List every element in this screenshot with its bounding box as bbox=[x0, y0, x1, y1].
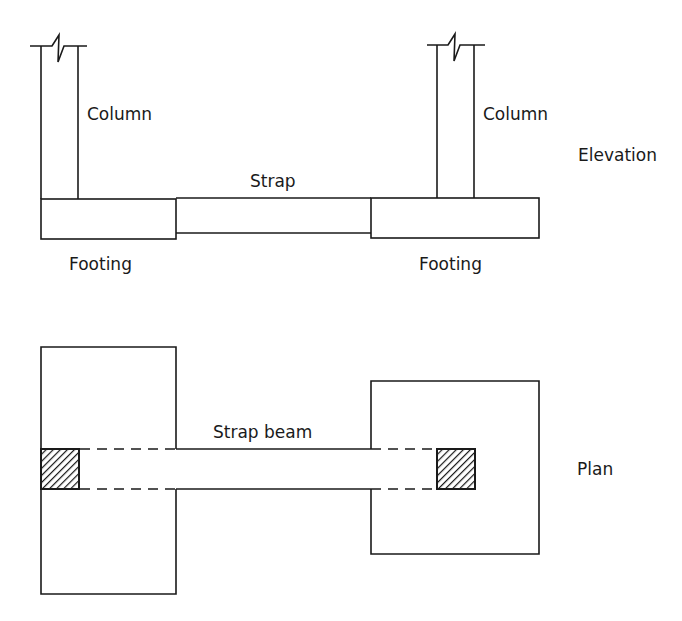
strap-elevation bbox=[176, 198, 371, 233]
break-line-icon bbox=[427, 34, 485, 61]
plan-view: Strap beam Plan bbox=[41, 347, 613, 594]
strap-label: Strap bbox=[250, 171, 296, 191]
strap-footing-diagram: Column Column Strap Footing Footing Elev… bbox=[0, 0, 682, 621]
left-footing-elevation bbox=[41, 199, 176, 239]
right-footing-label: Footing bbox=[419, 254, 482, 274]
right-column-label: Column bbox=[483, 104, 548, 124]
right-column-elevation bbox=[427, 34, 485, 198]
elevation-view-label: Elevation bbox=[578, 145, 657, 165]
left-column-label: Column bbox=[87, 104, 152, 124]
plan-view-label: Plan bbox=[577, 459, 613, 479]
strap-beam-label: Strap beam bbox=[213, 422, 312, 442]
elevation-view: Column Column Strap Footing Footing Elev… bbox=[30, 34, 657, 274]
right-column-plan-hatched bbox=[437, 449, 475, 489]
strap-beam-plan bbox=[80, 449, 437, 489]
right-footing-elevation bbox=[371, 198, 539, 238]
left-footing-label: Footing bbox=[69, 254, 132, 274]
left-column-elevation bbox=[30, 35, 87, 199]
left-column-plan-hatched bbox=[41, 449, 79, 489]
